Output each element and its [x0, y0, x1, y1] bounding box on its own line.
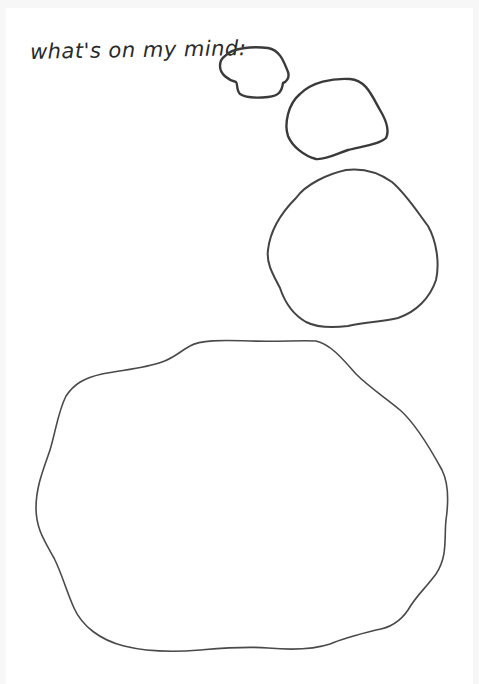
- thought-bubbles-drawing: [0, 0, 479, 684]
- bubble-main: [36, 341, 448, 652]
- bubble-large: [268, 170, 438, 328]
- bubble-small: [220, 47, 289, 97]
- bubble-medium: [287, 79, 388, 159]
